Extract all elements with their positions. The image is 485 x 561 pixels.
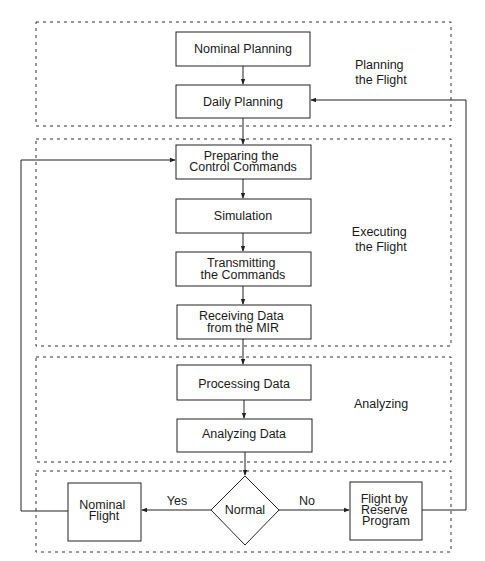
section-label-analyzing: Analyzing [354,397,408,411]
node-reserve-program: Flight by Reserve Program [350,482,422,540]
node-receiving-data: Receiving Data from the MIR [177,305,311,339]
svg-text:Analyzing Data: Analyzing Data [202,427,286,441]
svg-text:Processing Data: Processing Data [198,377,290,391]
flowchart: Planning the Flight Executing the Flight… [0,0,485,561]
section-label-planning: Planning the Flight [355,58,407,87]
node-daily-planning: Daily Planning [176,85,310,118]
svg-text:Nominal Planning: Nominal Planning [194,42,292,56]
svg-text:Flight by Reserve: Flight by Reserve Program [361,492,412,528]
svg-text:Preparing the Control Co: Preparing the Control Commands [189,149,297,174]
yes-label: Yes [167,494,187,508]
no-label: No [299,494,315,508]
section-label-executing: Executing the Flight [352,225,410,254]
svg-text:Transmitting the Command: Transmitting the Commands [201,256,286,282]
svg-text:Simulation: Simulation [214,209,272,223]
svg-text:Normal: Normal [225,503,265,517]
feedback-reserve-to-daily-planning [311,100,466,510]
node-processing-data: Processing Data [177,365,311,400]
node-analyzing-data: Analyzing Data [177,419,312,452]
svg-text:Daily Planning: Daily Planning [203,95,283,109]
svg-text:Receiving Data from the: Receiving Data from the MIR [199,309,287,335]
decision-normal: Normal [211,476,279,545]
node-preparing-commands: Preparing the Control Commands [176,145,311,179]
node-nominal-planning: Nominal Planning [176,32,310,66]
feedback-nominal-flight-to-preparing [21,160,175,511]
node-nominal-flight: Nominal Flight [68,483,141,541]
node-transmitting-commands: Transmitting the Commands [176,252,311,286]
node-simulation: Simulation [176,199,311,233]
